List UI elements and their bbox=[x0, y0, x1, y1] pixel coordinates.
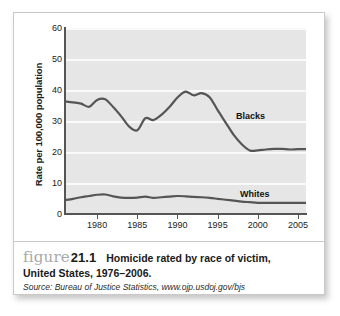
x-tick-mark bbox=[218, 215, 219, 219]
y-tick-label: 0 bbox=[34, 209, 62, 219]
x-tick-mark bbox=[137, 215, 138, 219]
figure-number: 21.1 bbox=[71, 250, 96, 265]
caption-title-line-2: United States, 1976–2006. bbox=[23, 266, 314, 280]
y-tick-label: 50 bbox=[34, 54, 62, 64]
y-axis-tick-labels: 0102030405060 bbox=[34, 28, 62, 214]
y-tick-label: 60 bbox=[34, 23, 62, 33]
x-tick-label: 1980 bbox=[87, 220, 107, 230]
x-tick-label: 1990 bbox=[167, 220, 187, 230]
x-tick-mark bbox=[298, 215, 299, 219]
chart-region: Rate per 100,000 population 010203040506… bbox=[14, 13, 324, 241]
series-line-blacks bbox=[65, 92, 306, 151]
y-tick-label: 30 bbox=[34, 116, 62, 126]
caption-title-line-1: Homicide rated by race of victim, bbox=[106, 252, 271, 264]
series-line-whites bbox=[65, 194, 306, 203]
x-tick-mark bbox=[177, 215, 178, 219]
caption-heading-line: figure21.1Homicide rated by race of vict… bbox=[23, 250, 314, 265]
caption-region: figure21.1Homicide rated by race of vict… bbox=[14, 242, 324, 294]
y-tick-label: 40 bbox=[34, 85, 62, 95]
x-tick-mark bbox=[258, 215, 259, 219]
x-tick-label: 2005 bbox=[288, 220, 308, 230]
series-label-blacks: Blacks bbox=[236, 111, 265, 121]
x-tick-label: 2000 bbox=[248, 220, 268, 230]
series-label-whites: Whites bbox=[240, 189, 270, 199]
x-tick-label: 1995 bbox=[208, 220, 228, 230]
series-lines bbox=[65, 28, 306, 214]
figure-word: figure bbox=[23, 248, 70, 266]
x-tick-label: 1985 bbox=[127, 220, 147, 230]
y-tick-label: 10 bbox=[34, 178, 62, 188]
x-tick-mark bbox=[97, 215, 98, 219]
caption-source: Source: Bureau of Justice Statistics, ww… bbox=[23, 282, 314, 293]
y-tick-label: 20 bbox=[34, 147, 62, 157]
figure-card: Rate per 100,000 population 010203040506… bbox=[13, 12, 325, 295]
